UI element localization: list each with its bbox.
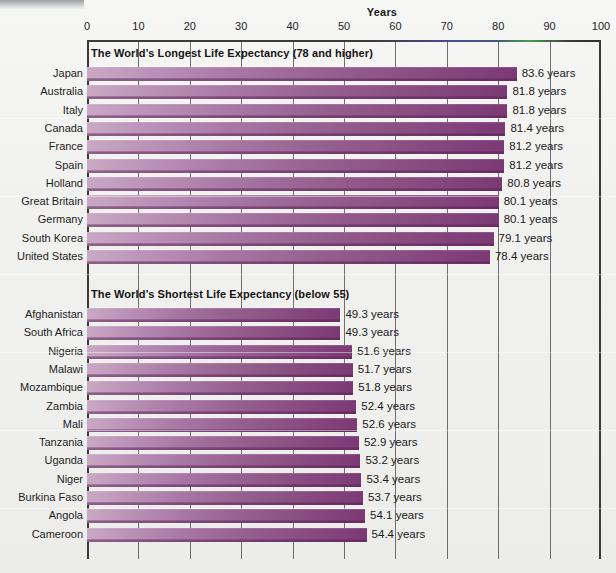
bar-row[interactable]: South Korea79.1 years [87,232,601,246]
category-label: Tanzania [0,436,87,448]
bar-row[interactable]: Mozambique51.8 years [87,381,601,395]
bar-germany[interactable] [87,213,499,227]
value-label: 51.8 years [358,381,412,393]
category-label-text: Tanzania [39,436,83,448]
category-label: Cameroon [0,528,87,540]
value-label: 52.9 years [364,436,418,448]
category-label-text: Spain [55,159,83,171]
value-label: 51.7 years [358,363,412,375]
category-label-text: Angola [49,509,83,521]
bar-row[interactable]: Burkina Faso53.7 years [87,491,601,505]
category-label: Afghanistan [0,308,87,320]
bar-tanzania[interactable] [87,436,359,450]
bar-nigeria[interactable] [87,345,352,359]
bar-row[interactable]: Niger53.4 years [87,473,601,487]
bar-zambia[interactable] [87,400,356,414]
value-label: 81.2 years [509,159,563,171]
category-label: Great Britain [0,195,87,207]
value-label: 81.8 years [512,85,566,97]
category-label-text: South Africa [24,326,83,338]
category-label: Zambia [0,400,87,412]
bar-row[interactable]: Uganda53.2 years [87,454,601,468]
bar-row[interactable]: Japan83.6 years [87,67,601,81]
category-label-text: Nigeria [48,345,83,357]
category-label: South Korea [0,232,87,244]
bar-row[interactable]: Afghanistan49.3 years [87,308,601,322]
bar-spain[interactable] [87,159,504,173]
axis-title: Years [0,6,616,18]
category-label: Germany [0,213,87,225]
bar-holland[interactable] [87,177,502,191]
bar-uganda[interactable] [87,454,360,468]
bar-australia[interactable] [87,85,507,99]
category-label-text: South Korea [22,232,83,244]
bar-angola[interactable] [87,509,365,523]
bar-mali[interactable] [87,418,357,432]
x-tick-label-50: 50 [338,20,350,32]
axis-title-label: Years [367,6,397,18]
bar-row[interactable]: United States78.4 years [87,250,601,264]
bar-row[interactable]: Spain81.2 years [87,159,601,173]
bar-row[interactable]: South Africa49.3 years [87,326,601,340]
bar-row[interactable]: Mali52.6 years [87,418,601,432]
category-label: United States [0,250,87,262]
category-label-text: Germany [38,213,83,225]
category-label-text: Australia [40,85,83,97]
value-label: 49.3 years [345,326,399,338]
bar-japan[interactable] [87,67,517,81]
bar-row[interactable]: Malawi51.7 years [87,363,601,377]
bar-great-britain[interactable] [87,195,499,209]
category-label: Mozambique [0,381,87,393]
bar-afghanistan[interactable] [87,308,340,322]
bar-row[interactable]: Holland80.8 years [87,177,601,191]
category-label-text: Mozambique [20,381,83,393]
value-label: 52.4 years [361,400,415,412]
panel-header-1: The World’s Longest Life Expectancy (78 … [91,47,373,59]
bar-row[interactable]: Zambia52.4 years [87,400,601,414]
bar-niger[interactable] [87,473,361,487]
bar-row[interactable]: Cameroon54.4 years [87,528,601,542]
x-axis-tick-labels: 0102030405060708090100 [87,20,601,34]
x-tick-label-40: 40 [286,20,298,32]
bar-cameroon[interactable] [87,528,367,542]
bar-mozambique[interactable] [87,381,353,395]
bar-row[interactable]: Angola54.1 years [87,509,601,523]
category-label-text: Zambia [46,400,83,412]
x-tick-label-30: 30 [235,20,247,32]
bar-row[interactable]: Germany80.1 years [87,213,601,227]
bar-row[interactable]: Tanzania52.9 years [87,436,601,450]
bar-france[interactable] [87,140,504,154]
category-label: South Africa [0,326,87,338]
bar-row[interactable]: Great Britain80.1 years [87,195,601,209]
x-tick-label-20: 20 [184,20,196,32]
bar-row[interactable]: Australia81.8 years [87,85,601,99]
value-label: 80.1 years [504,195,558,207]
category-label-text: Canada [44,122,83,134]
value-label: 81.8 years [512,104,566,116]
category-label-text: Afghanistan [25,308,83,320]
bar-malawi[interactable] [87,363,353,377]
bar-south-korea[interactable] [87,232,494,246]
x-tick-label-70: 70 [441,20,453,32]
value-label: 81.4 years [510,122,564,134]
category-label-text: Mali [63,418,83,430]
value-label: 81.2 years [509,140,563,152]
category-label: Nigeria [0,345,87,357]
category-label-text: France [49,140,83,152]
bar-row[interactable]: Italy81.8 years [87,104,601,118]
bar-row[interactable]: Nigeria51.6 years [87,345,601,359]
x-tick-label-10: 10 [132,20,144,32]
bar-south-africa[interactable] [87,326,340,340]
category-label: Spain [0,159,87,171]
bar-united-states[interactable] [87,250,490,264]
bar-burkina-faso[interactable] [87,491,363,505]
bar-canada[interactable] [87,122,505,136]
x-tick-label-90: 90 [543,20,555,32]
bar-italy[interactable] [87,104,507,118]
bar-row[interactable]: Canada81.4 years [87,122,601,136]
bar-row[interactable]: France81.2 years [87,140,601,154]
category-label: Mali [0,418,87,430]
value-label: 78.4 years [495,250,549,262]
category-label: France [0,140,87,152]
value-label: 53.7 years [368,491,422,503]
